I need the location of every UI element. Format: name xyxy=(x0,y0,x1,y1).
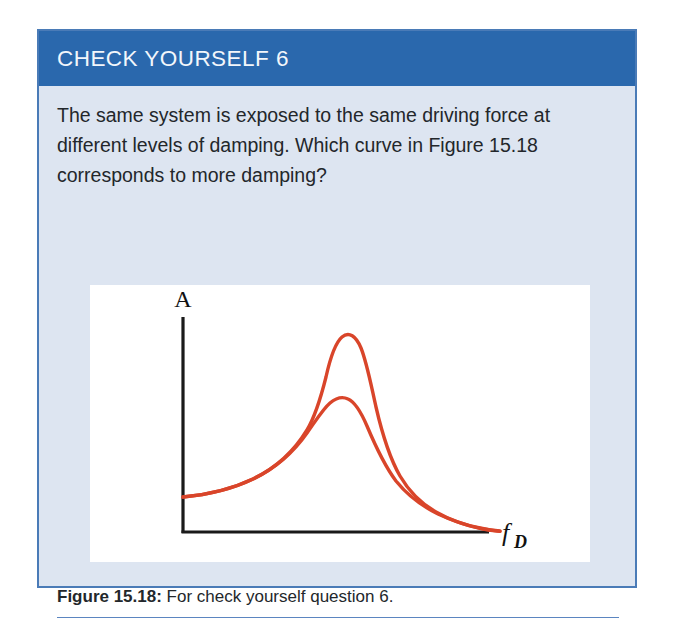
page-root: CHECK YOURSELF 6 The same system is expo… xyxy=(0,0,675,618)
card-body: The same system is exposed to the same d… xyxy=(39,86,635,586)
resonance-curve-chart: A f D xyxy=(90,285,590,562)
check-yourself-card: CHECK YOURSELF 6 The same system is expo… xyxy=(37,29,637,588)
card-header-title: CHECK YOURSELF 6 xyxy=(57,46,289,72)
figure-panel: A f D xyxy=(90,285,590,562)
figure-caption-text: For check yourself question 6. xyxy=(162,587,394,606)
curve-more-damping xyxy=(183,398,500,532)
figure-caption: Figure 15.18: For check yourself questio… xyxy=(57,586,621,608)
card-header: CHECK YOURSELF 6 xyxy=(39,31,635,86)
y-axis-label: A xyxy=(174,286,192,312)
x-axis-label-main: f xyxy=(502,518,513,547)
question-prompt-text: The same system is exposed to the same d… xyxy=(57,100,617,190)
curve-less-damping xyxy=(183,334,500,531)
x-axis-label-subscript: D xyxy=(513,532,527,552)
x-axis-label: f D xyxy=(502,518,527,552)
figure-caption-label: Figure 15.18: xyxy=(57,587,162,606)
